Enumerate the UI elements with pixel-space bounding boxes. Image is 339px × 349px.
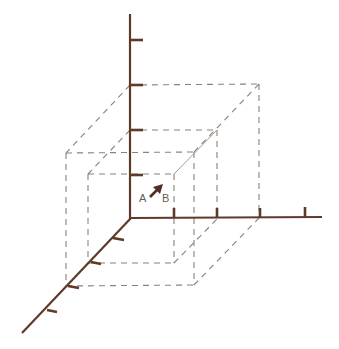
depth-axis xyxy=(22,218,131,333)
label-b: B xyxy=(162,192,169,204)
axes xyxy=(22,14,322,333)
horizontal-axis xyxy=(130,217,322,218)
coordinate-diagram: A B xyxy=(0,0,339,349)
label-a: A xyxy=(139,192,147,204)
vector-ab: A B xyxy=(139,184,169,204)
